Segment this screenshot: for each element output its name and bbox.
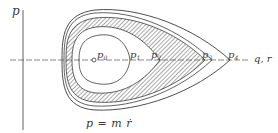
- hatched-band: [0, 0, 278, 133]
- p0-marker: [92, 58, 96, 62]
- point-label-p3: p3: [202, 50, 212, 61]
- phase-diagram: [0, 0, 278, 133]
- point-label-p2: p2: [151, 50, 161, 61]
- q-r-axis-label: q, r: [254, 54, 272, 64]
- point-label-p4: p4: [228, 50, 238, 61]
- caption-momentum-equation: p = m ṙ: [86, 118, 132, 129]
- point-label-p1: p1: [130, 50, 140, 61]
- point-label-p0: p0: [97, 50, 107, 61]
- p-axis-label: p: [12, 5, 20, 17]
